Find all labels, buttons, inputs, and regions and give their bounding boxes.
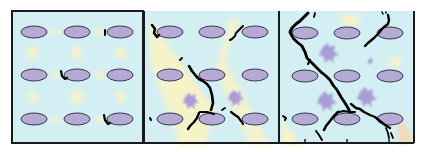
particle xyxy=(242,26,268,38)
particle xyxy=(157,113,183,125)
particle xyxy=(292,113,318,125)
particle xyxy=(199,113,225,125)
particle xyxy=(377,70,403,82)
particle xyxy=(21,26,47,38)
particle xyxy=(242,69,268,81)
particle xyxy=(334,27,360,39)
crack-panel-3 xyxy=(314,13,315,17)
particle xyxy=(21,113,47,125)
particle xyxy=(64,113,90,125)
particle xyxy=(107,26,133,38)
particle xyxy=(21,69,47,81)
particle xyxy=(199,69,225,81)
particle xyxy=(292,27,318,39)
particle xyxy=(242,113,268,125)
crack-panel-3 xyxy=(339,111,355,112)
particle xyxy=(157,69,183,81)
particle xyxy=(64,69,90,81)
particle xyxy=(64,26,90,38)
particle xyxy=(157,26,183,38)
particle xyxy=(107,69,133,81)
particle xyxy=(334,70,360,82)
crack-panel-2 xyxy=(150,118,151,120)
particle xyxy=(334,113,360,125)
particle xyxy=(292,70,318,82)
crack-propagation-diagram xyxy=(0,0,421,152)
particle xyxy=(199,26,225,38)
